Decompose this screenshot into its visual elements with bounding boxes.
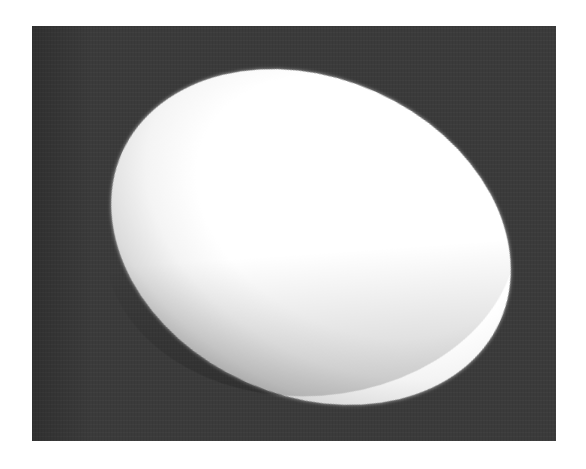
frame-edge-shade <box>32 26 92 441</box>
white-ellipsoid-object <box>57 26 556 441</box>
object-shading <box>93 64 528 410</box>
photo-frame <box>32 26 556 441</box>
